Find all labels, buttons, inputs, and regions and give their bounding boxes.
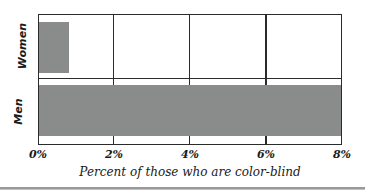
chart-figure: Women Men 0% 2% 4% 6% 8% Percent of thos… xyxy=(0,0,365,195)
xtick-label-2: 4% xyxy=(170,148,210,161)
x-axis-title: Percent of those who are color-blind xyxy=(38,165,342,179)
xtick-label-3: 6% xyxy=(246,148,286,161)
plot-area xyxy=(38,14,342,145)
xtick-label-0: 0% xyxy=(18,148,58,161)
bottom-divider-rule xyxy=(0,187,365,190)
category-label-men: Men xyxy=(0,78,36,145)
bar-men[interactable] xyxy=(39,85,341,136)
xtick-label-4: 8% xyxy=(322,148,362,161)
category-label-women: Women xyxy=(0,14,36,78)
category-divider xyxy=(39,78,341,80)
bar-women[interactable] xyxy=(39,22,69,73)
xtick-label-1: 2% xyxy=(94,148,134,161)
